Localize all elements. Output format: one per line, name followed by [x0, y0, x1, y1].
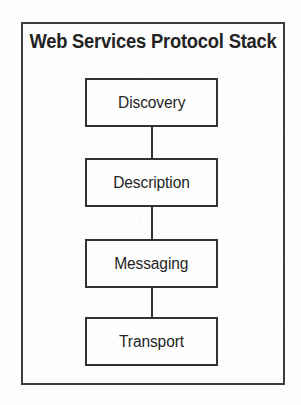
connector-discovery-to-description [151, 126, 153, 159]
stack-layer-messaging[interactable]: Messaging [85, 239, 218, 288]
stack-layer-label: Messaging [114, 255, 188, 273]
figure-title: Web Services Protocol Stack [29, 30, 277, 52]
stack-layer-discovery[interactable]: Discovery [85, 78, 218, 127]
figure-page: Web Services Protocol Stack Discovery De… [0, 0, 301, 405]
stack-layer-label: Discovery [118, 94, 185, 112]
stack-layer-label: Transport [119, 333, 184, 351]
stack-layer-transport[interactable]: Transport [85, 317, 218, 366]
stack-layer-label: Description [113, 174, 190, 192]
connector-messaging-to-transport [151, 287, 153, 318]
connector-description-to-messaging [151, 206, 153, 240]
stack-layer-description[interactable]: Description [85, 158, 218, 207]
